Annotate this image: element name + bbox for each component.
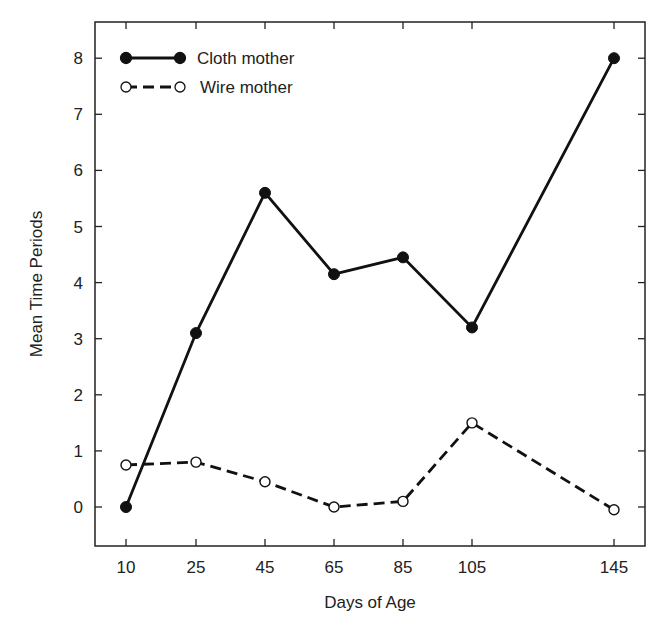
y-tick-label: 2: [74, 386, 83, 405]
x-tick-label: 85: [394, 558, 413, 577]
x-tick-label: 45: [256, 558, 275, 577]
cloth-mother-marker: [609, 53, 620, 64]
wire-mother-marker: [121, 460, 131, 470]
x-tick-label: 145: [600, 558, 628, 577]
wire-mother-marker: [329, 502, 339, 512]
wire-mother-marker: [191, 457, 201, 467]
legend-marker: [175, 53, 186, 64]
legend-label: Wire mother: [200, 78, 293, 97]
legend: Cloth motherWire mother: [121, 49, 295, 97]
y-tick-label: 6: [74, 161, 83, 180]
cloth-mother-marker: [329, 269, 340, 280]
wire-mother-marker: [609, 505, 619, 515]
x-axis-title: Days of Age: [324, 593, 416, 612]
legend-marker: [175, 82, 185, 92]
y-axis-title: Mean Time Periods: [27, 211, 46, 357]
cloth-mother-marker: [467, 322, 478, 333]
y-tick-label: 7: [74, 105, 83, 124]
x-tick-label: 65: [325, 558, 344, 577]
cloth-mother-marker: [191, 328, 202, 339]
x-axis: 1025456585105145: [117, 22, 629, 577]
y-tick-label: 1: [74, 442, 83, 461]
x-tick-label: 25: [187, 558, 206, 577]
wire-mother-marker: [260, 477, 270, 487]
cloth-mother-line: [126, 58, 614, 507]
x-tick-label: 105: [458, 558, 486, 577]
wire-mother-marker: [467, 418, 477, 428]
cloth-mother-marker: [398, 252, 409, 263]
legend-marker: [121, 82, 131, 92]
cloth-mother-marker: [121, 502, 132, 513]
y-axis: 012345678: [74, 49, 645, 517]
line-chart: 012345678 1025456585105145 Cloth motherW…: [0, 0, 666, 629]
x-tick-label: 10: [117, 558, 136, 577]
y-tick-label: 3: [74, 330, 83, 349]
y-tick-label: 4: [74, 274, 83, 293]
legend-marker: [121, 53, 132, 64]
legend-label: Cloth mother: [197, 49, 295, 68]
series-group: [121, 53, 620, 515]
plot-frame: [95, 22, 645, 546]
y-tick-label: 8: [74, 49, 83, 68]
y-tick-label: 5: [74, 218, 83, 237]
cloth-mother-marker: [260, 187, 271, 198]
y-tick-label: 0: [74, 498, 83, 517]
wire-mother-marker: [398, 496, 408, 506]
